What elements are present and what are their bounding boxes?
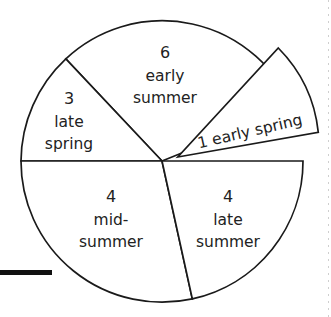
answer-rule-bar [0, 270, 52, 275]
pie-label-mid-summer-value: 4 [106, 187, 116, 206]
pie-label-mid-summer-line1: mid- [94, 211, 129, 229]
pie-chart-figure: 6 early summer 3 late spring 4 mid- summ… [0, 0, 331, 317]
pie-label-early-summer-line2: summer [133, 89, 198, 107]
pie-slices-group [21, 21, 318, 302]
pie-label-late-summer-line2: summer [196, 233, 261, 251]
pie-label-late-spring-line2: spring [45, 135, 93, 153]
pie-chart-svg: 6 early summer 3 late spring 4 mid- summ… [0, 0, 331, 317]
pie-label-late-summer-value: 4 [223, 187, 233, 206]
pie-label-late-spring-line1: late [54, 113, 83, 131]
pie-label-early-summer-value: 6 [160, 43, 170, 62]
pie-label-early-summer-line1: early [146, 67, 185, 85]
pie-label-late-spring-value: 3 [64, 89, 74, 108]
pie-label-mid-summer-line2: summer [79, 233, 144, 251]
pie-label-late-summer-line1: late [213, 211, 242, 229]
